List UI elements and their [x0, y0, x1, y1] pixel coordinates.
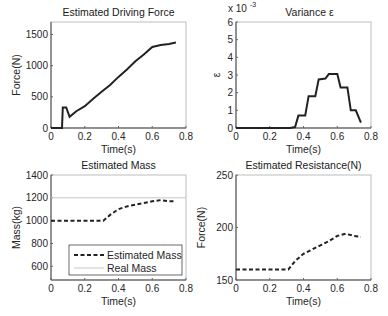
subplot-4: 00.20.40.60.8150200250Estimated Resistan… — [195, 159, 378, 307]
y-tick-label: 1 — [227, 105, 233, 116]
y-tick-label: 6 — [227, 17, 233, 28]
x-tick-label: 0 — [233, 283, 239, 294]
x-tick-label: 0.2 — [263, 283, 277, 294]
x-tick-label: 0.6 — [330, 283, 344, 294]
y-axis-label: ε — [210, 72, 222, 77]
x-tick-label: 0.8 — [364, 283, 378, 294]
x-tick-label: 0.6 — [330, 131, 344, 142]
axes-box — [51, 22, 186, 128]
x-tick-label: 0.2 — [78, 131, 92, 142]
y-tick-label: 600 — [31, 261, 48, 272]
y-tick-label: 1200 — [26, 192, 49, 203]
y-tick-label: 800 — [31, 238, 48, 249]
y-tick-label: 150 — [216, 275, 233, 286]
y-tick-label: 4 — [227, 52, 233, 63]
chart-title: Estimated Resistance(N) — [245, 159, 361, 171]
y-tick-label: 200 — [216, 222, 233, 233]
x-tick-label: 0.8 — [364, 131, 378, 142]
y-tick-label: 0 — [227, 123, 233, 134]
x-tick-label: 0.4 — [297, 283, 311, 294]
y-tick-label: 2 — [227, 87, 233, 98]
x-tick-label: 0 — [48, 283, 54, 294]
legend-label-real: Real Mass — [107, 262, 157, 274]
x-tick-label: 0 — [48, 131, 54, 142]
y-tick-label: 250 — [216, 170, 233, 181]
x-tick-label: 0.6 — [145, 131, 159, 142]
x-axis-label: Time(s) — [286, 295, 321, 307]
x-tick-label: 0 — [233, 131, 239, 142]
y-tick-label: 5 — [227, 34, 233, 45]
x-tick-label: 0.2 — [78, 283, 92, 294]
y-tick-label: 1400 — [26, 170, 49, 181]
y-tick-label: 1000 — [26, 215, 49, 226]
y-tick-label: 500 — [31, 91, 48, 102]
x-tick-label: 0.4 — [112, 131, 126, 142]
chart-title: Variance ε — [285, 6, 334, 18]
figure: 00.20.40.60.8050010001500Estimated Drivi… — [0, 0, 388, 316]
axes-box — [236, 22, 371, 128]
y-axis-label: Mass(kg) — [10, 206, 22, 249]
axes-box — [236, 175, 371, 280]
y-tick-label: 3 — [227, 70, 233, 81]
x-axis-label: Time(s) — [286, 143, 321, 155]
y-tick-label: 1000 — [26, 60, 49, 71]
subplot-1: 00.20.40.60.8050010001500Estimated Drivi… — [10, 6, 193, 155]
x-axis-label: Time(s) — [101, 295, 136, 307]
x-tick-label: 0.2 — [263, 131, 277, 142]
chart-title: Estimated Mass — [81, 159, 156, 171]
y-multiplier: x 10 — [228, 3, 247, 14]
y-tick-label: 1500 — [26, 29, 49, 40]
y-axis-label: Force(N) — [10, 54, 22, 95]
x-tick-label: 0.4 — [112, 283, 126, 294]
x-axis-label: Time(s) — [101, 143, 136, 155]
subplot-3: 00.20.40.60.8600800100012001400Estimated… — [10, 159, 193, 307]
x-tick-label: 0.6 — [145, 283, 159, 294]
y-multiplier-exponent: -3 — [250, 1, 256, 8]
subplot-2: 00.20.40.60.80123456Variance εx 10-3Time… — [210, 1, 378, 155]
x-tick-label: 0.8 — [179, 283, 193, 294]
chart-title: Estimated Driving Force — [62, 6, 174, 18]
legend: Estimated MassReal Mass — [69, 245, 182, 275]
x-tick-label: 0.4 — [297, 131, 311, 142]
y-axis-label: Force(N) — [195, 207, 207, 248]
x-tick-label: 0.8 — [179, 131, 193, 142]
y-tick-label: 0 — [42, 123, 48, 134]
legend-label-estimated: Estimated Mass — [107, 249, 182, 261]
